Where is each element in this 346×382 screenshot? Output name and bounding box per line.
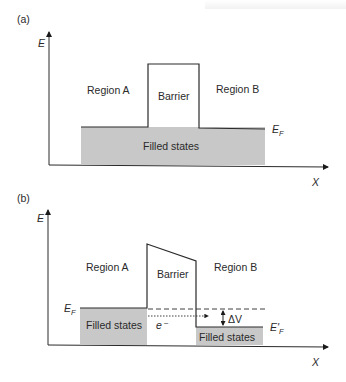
barrier-label: Barrier: [158, 90, 190, 102]
band-diagram: (a) E X Region A Barrier Region B Filled…: [0, 0, 346, 382]
electron-label: e⁻: [156, 319, 169, 331]
y-axis-label: E: [37, 212, 45, 224]
x-axis: [49, 165, 328, 167]
panel-a: (a) E X Region A Barrier Region B Filled…: [17, 13, 328, 188]
fermi-level-label: EF: [272, 123, 284, 138]
region-a-label: Region A: [87, 84, 130, 96]
filled-states-left-label: Filled states: [86, 319, 142, 331]
filled-states-right-label: Filled states: [199, 331, 255, 343]
fermi-left-label: EF: [64, 302, 76, 317]
barrier-label: Barrier: [157, 268, 189, 280]
fermi-right-label: E'F: [270, 321, 284, 336]
region-b-label: Region B: [214, 261, 257, 273]
region-b-label: Region B: [216, 83, 259, 95]
panel-b: (b) E X Region A Barrier Region B Filled…: [17, 192, 328, 368]
delta-v-label: ΔV: [228, 313, 242, 325]
x-axis-label: X: [311, 356, 320, 368]
panel-a-label: (a): [17, 13, 30, 25]
region-a-label: Region A: [86, 261, 129, 273]
x-axis: [48, 345, 328, 347]
panel-b-label: (b): [17, 192, 30, 204]
y-axis-label: E: [38, 37, 46, 49]
x-axis-label: X: [311, 176, 320, 188]
filled-states-label: Filled states: [143, 140, 199, 152]
